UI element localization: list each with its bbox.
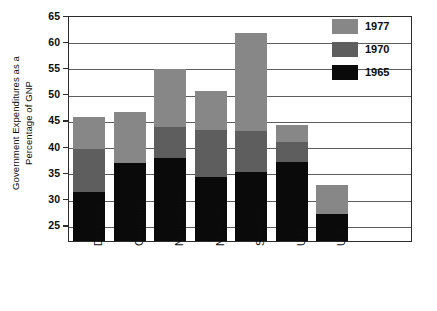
x-tick-label-norway: Norway — [215, 210, 226, 246]
bar-segment-1977 — [114, 112, 146, 163]
legend-label-1965: 1965 — [365, 66, 389, 79]
bar-segment-1970 — [276, 142, 308, 162]
bar-segment-1977 — [73, 117, 105, 148]
y-tick-label-50: 50 — [36, 89, 60, 100]
legend-label-1970: 1970 — [365, 43, 389, 56]
bar-chart: Government Expenditures as a Percentage … — [0, 0, 437, 311]
legend-swatch-1970 — [332, 42, 358, 57]
y-tick-label-55: 55 — [36, 63, 60, 74]
y-tick-label-60: 60 — [36, 37, 60, 48]
y-tick-label-30: 30 — [36, 194, 60, 205]
bar-segment-1977 — [195, 91, 227, 130]
x-tick-label-uk: U.K. — [296, 226, 307, 246]
bar-segment-1970 — [195, 130, 227, 177]
bar-norway — [195, 15, 227, 241]
bar-uk — [276, 15, 308, 241]
y-tick-label-65: 65 — [36, 11, 60, 22]
bar-segment-1977 — [235, 33, 267, 131]
legend-item-1977[interactable]: 1977 — [332, 16, 410, 39]
bar-segment-1977 — [276, 125, 308, 142]
chart-legend: 197719701965 — [332, 16, 410, 85]
legend-item-1970[interactable]: 1970 — [332, 39, 410, 62]
legend-swatch-1977 — [332, 19, 358, 34]
y-axis-title-line-2: Percentage of GNP — [22, 56, 35, 190]
x-tick-label-us: U.S. — [336, 226, 347, 246]
y-tick-label-35: 35 — [36, 168, 60, 179]
x-tick-label-sweden: Sweden — [255, 208, 266, 246]
y-axis-title-line-1: Government Expenditures as a — [10, 56, 21, 190]
bar-segment-1977 — [154, 69, 186, 127]
bar-segment-1970 — [73, 149, 105, 193]
legend-label-1977: 1977 — [365, 20, 389, 33]
y-tick-label-45: 45 — [36, 115, 60, 126]
x-tick-label-netherlands: Netherlands — [174, 189, 185, 246]
legend-swatch-1965 — [332, 65, 358, 80]
bar-segment-1977 — [316, 185, 348, 213]
x-tick-label-denmark: Denmark — [93, 203, 104, 246]
legend-item-1965[interactable]: 1965 — [332, 62, 410, 85]
y-tick-label-25: 25 — [36, 220, 60, 231]
bar-segment-1970 — [154, 127, 186, 158]
x-tick-label-germany: Germany — [134, 203, 145, 246]
bar-segment-1970 — [235, 131, 267, 172]
y-tick-label-40: 40 — [36, 142, 60, 153]
